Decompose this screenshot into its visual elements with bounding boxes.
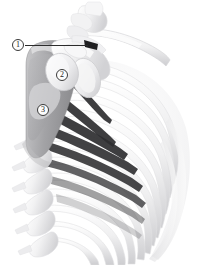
callout-3-label: 3 <box>41 106 45 114</box>
anatomy-illustration <box>0 0 204 265</box>
callout-1-label: 1 <box>16 41 20 49</box>
callout-1[interactable]: 1 <box>12 39 24 51</box>
callout-1-leader-line <box>25 45 88 46</box>
callout-2-label: 2 <box>60 71 64 79</box>
anatomy-figure: 1 2 3 <box>0 0 204 265</box>
callout-2[interactable]: 2 <box>56 69 68 81</box>
callout-3[interactable]: 3 <box>37 104 49 116</box>
